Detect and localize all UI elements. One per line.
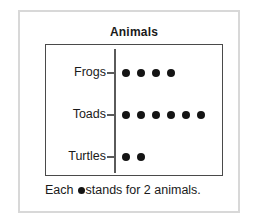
dot-icon [137, 69, 145, 77]
row-label-turtles: Turtles [0, 149, 106, 164]
dot-icon [78, 187, 85, 194]
dot-icon [167, 69, 175, 77]
axis-tick-toads [107, 114, 115, 116]
dot-icon [122, 153, 130, 161]
dot-icon [167, 111, 175, 119]
dot-icon [152, 111, 160, 119]
dot-icon [152, 69, 160, 77]
dot-icon [182, 111, 190, 119]
row-label-frogs: Frogs [0, 65, 106, 80]
row-label-toads: Toads [0, 107, 106, 122]
list-item: Frogs [46, 66, 222, 80]
dot-icon [137, 111, 145, 119]
list-item: Turtles [46, 150, 222, 164]
plot-area: Frogs Toads [45, 44, 223, 176]
dot-group-toads [122, 108, 205, 122]
pictograph-key: Each stands for 2 animals. [45, 183, 235, 198]
dot-group-frogs [122, 66, 175, 80]
dot-icon [122, 69, 130, 77]
key-prefix-text: Each [45, 183, 74, 198]
key-suffix-text: stands for 2 animals. [86, 183, 201, 198]
page-title: Animals [45, 25, 223, 39]
list-item: Toads [46, 108, 222, 122]
dot-icon [197, 111, 205, 119]
pictograph-rows: Frogs Toads [46, 45, 222, 175]
dot-group-turtles [122, 150, 145, 164]
axis-tick-frogs [107, 72, 115, 74]
dot-icon [122, 111, 130, 119]
pictograph-figure: Animals Frogs Toads [0, 0, 261, 224]
axis-tick-turtles [107, 156, 115, 158]
dot-icon [137, 153, 145, 161]
